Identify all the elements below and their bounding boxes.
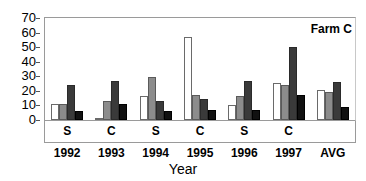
sub-label: C [91,124,131,138]
bar-chart: 010203040506070 Year Farm C S1992C1993S1… [0,0,366,181]
bar [119,104,127,120]
y-tick-mark [36,91,40,92]
x-tick-label: AVG [308,146,358,160]
x-tick-label: 1995 [175,146,225,160]
y-tick-mark [36,47,40,48]
y-tick-mark [36,18,40,19]
bar [281,85,289,120]
bar [325,92,333,120]
y-tick-label: 20 [22,84,36,97]
bar [192,95,200,121]
y-tick-label: 30 [22,69,36,82]
bar [59,104,67,120]
bar [140,96,148,120]
y-tick-mark [36,105,40,106]
y-axis: 010203040506070 [0,0,40,130]
bar [148,77,156,120]
bar-group [222,18,266,120]
x-axis-title: Year [0,161,366,177]
plot-area [45,18,355,120]
bar [103,101,111,120]
bar [164,111,172,120]
sub-label: S [47,124,87,138]
x-tick-label: 1994 [131,146,181,160]
bar [317,90,325,120]
bar [184,37,192,120]
sub-label: S [224,124,264,138]
sub-label: C [269,124,309,138]
bar [244,81,252,120]
bar-group [134,18,178,120]
bar [67,85,75,120]
y-tick-label: 50 [22,40,36,53]
sub-label: C [180,124,220,138]
farm-annotation-label: Farm C [311,22,352,36]
sub-label: S [136,124,176,138]
bar [297,95,305,120]
y-tick-mark [36,76,40,77]
bar-group [45,18,89,120]
bar [200,99,208,120]
y-tick-label: 40 [22,55,36,68]
x-tick-label: 1996 [219,146,269,160]
bar [273,83,281,120]
x-tick-label: 1993 [86,146,136,160]
x-tick-label: 1992 [42,146,92,160]
bar-group [266,18,310,120]
y-tick-label: 60 [22,26,36,39]
bar [111,81,119,120]
bar [156,101,164,120]
y-tick-label: 0 [29,113,36,126]
bar [208,110,216,120]
bar [95,118,103,120]
bar [289,47,297,120]
y-tick-mark [36,33,40,34]
y-tick-label: 10 [22,98,36,111]
bar [333,82,341,120]
bar [236,96,244,120]
bar [75,111,83,120]
y-tick-label: 70 [22,11,36,24]
bar [252,110,260,120]
y-tick-mark [36,62,40,63]
bar-group [89,18,133,120]
bar [341,107,349,120]
bar-group [178,18,222,120]
x-tick-label: 1997 [264,146,314,160]
bar [51,104,59,120]
y-tick-mark [36,120,40,121]
bar [228,105,236,120]
